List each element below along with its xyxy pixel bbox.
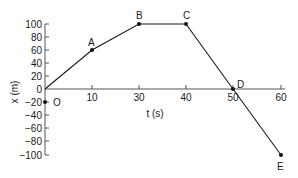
point-label-c: C: [183, 10, 190, 21]
y-axis-label: x (m): [9, 81, 20, 104]
x-tick-label: 40: [180, 92, 192, 103]
point-labels: O A B C D E: [53, 10, 284, 172]
y-tick-label: 100: [25, 19, 42, 30]
y-tick-labels: 100 80 60 40 20 0 −20 −40 −60 −80 −100: [19, 19, 42, 161]
point-b: [137, 22, 141, 26]
point-label-d: D: [237, 79, 244, 90]
point-label-e: E: [277, 161, 284, 172]
point-d: [231, 87, 235, 91]
x-tick-label: 50: [227, 92, 239, 103]
x-tick-label: 30: [133, 92, 145, 103]
point-label-b: B: [136, 10, 143, 21]
y-tick-label: −20: [25, 97, 42, 108]
point-c: [184, 22, 188, 26]
x-tick-labels: 10 30 40 50 60: [86, 92, 287, 103]
position-time-chart: 100 80 60 40 20 0 −20 −40 −60 −80 −100 1…: [0, 0, 298, 178]
y-tick-label: −80: [25, 136, 42, 147]
y-tick-label: 40: [31, 58, 43, 69]
y-tick-label: 60: [31, 45, 43, 56]
x-tick-label: 10: [86, 92, 98, 103]
x-tick-label: 60: [275, 92, 287, 103]
point-o: [43, 100, 47, 104]
y-tick-label: 80: [31, 32, 43, 43]
point-e: [279, 153, 283, 157]
x-axis-label: t (s): [146, 108, 163, 119]
y-tick-label: 0: [36, 84, 42, 95]
point-label-a: A: [88, 37, 95, 48]
y-tick-label: −40: [25, 110, 42, 121]
point-a: [90, 48, 94, 52]
y-tick-label: −100: [19, 150, 42, 161]
y-tick-label: −60: [25, 123, 42, 134]
point-label-o: O: [53, 97, 61, 108]
y-tick-label: 20: [31, 71, 43, 82]
x-ticks: [92, 85, 281, 89]
